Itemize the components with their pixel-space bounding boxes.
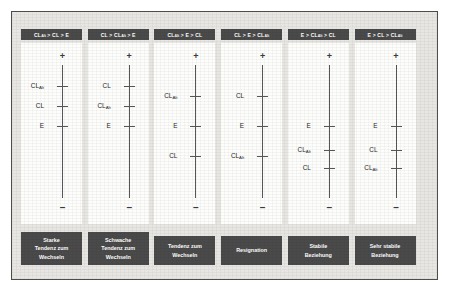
- caption-line: Beziehung: [305, 251, 332, 259]
- panel-caption-2: SchwacheTendenz zumWechseln: [88, 232, 149, 265]
- scale-axis-line: [262, 65, 263, 198]
- axis-negative-marker: –: [321, 203, 338, 213]
- tick-label: CL: [36, 103, 44, 109]
- axis-positive-marker: +: [254, 52, 271, 61]
- panel-plot-1: +–CLAltCLE: [21, 43, 82, 224]
- panel-caption-1: StarkeTendenz zumWechseln: [21, 232, 82, 265]
- tick-mark: [124, 86, 135, 87]
- tick-label: CLAlt: [298, 147, 311, 153]
- panel-plot-5: +–ECLAltCL: [288, 43, 349, 224]
- tick-mark: [257, 96, 268, 97]
- caption-line: Starke: [43, 236, 59, 244]
- tick-label: CLAlt: [31, 83, 44, 89]
- caption-line: Tendenz zum: [101, 244, 135, 252]
- panel-caption-3: Tendenz zumWechseln: [154, 236, 215, 265]
- tick-mark: [257, 126, 268, 127]
- scale-axis-line: [129, 65, 130, 198]
- tick-mark: [57, 106, 68, 107]
- panel-5: E > CLAlt > CL+–ECLAltCLStabileBeziehung: [288, 20, 349, 273]
- tick-label: CL: [103, 83, 111, 89]
- tick-label: CL: [169, 153, 177, 159]
- axis-negative-marker: –: [388, 203, 405, 213]
- panel-plot-4: +–CLECLAlt: [221, 43, 282, 224]
- tick-label: CL: [236, 93, 244, 99]
- axis-positive-marker: +: [121, 52, 138, 61]
- caption-line: Schwache: [105, 236, 131, 244]
- caption-line: Resignation: [236, 246, 267, 254]
- tick-mark: [391, 150, 402, 151]
- panel-plot-2: +–CLCLAltE: [88, 43, 149, 224]
- caption-line: Stabile: [309, 242, 327, 250]
- axis-positive-marker: +: [388, 52, 405, 61]
- caption-line: Beziehung: [371, 251, 398, 259]
- panel-caption-5: StabileBeziehung: [288, 236, 349, 265]
- tick-label: CLAlt: [364, 165, 377, 171]
- panel-header-4: CL > E > CLAlt: [221, 29, 282, 40]
- tick-label: CLAlt: [164, 93, 177, 99]
- tick-label: CL: [369, 147, 377, 153]
- panel-header-2: CL > CLAlt > E: [88, 29, 149, 40]
- caption-line: Tendenz zum: [35, 244, 69, 252]
- tick-mark: [124, 106, 135, 107]
- tick-mark: [324, 168, 335, 169]
- panel-plot-6: +–ECLCLAlt: [355, 43, 416, 224]
- tick-label: E: [307, 123, 311, 129]
- panel-6: E > CL > CLAlt+–ECLCLAltSehr stabileBezi…: [355, 20, 416, 273]
- tick-mark: [124, 126, 135, 127]
- panel-grid: CLAlt > CL > E+–CLAltCLEStarkeTendenz zu…: [12, 12, 439, 281]
- tick-mark: [324, 150, 335, 151]
- caption-line: Wechseln: [106, 253, 131, 261]
- tick-label: E: [373, 123, 377, 129]
- panel-caption-4: Resignation: [221, 236, 282, 265]
- tick-label: E: [173, 123, 177, 129]
- tick-mark: [190, 126, 201, 127]
- caption-line: Wechseln: [172, 251, 197, 259]
- tick-label: CLAlt: [98, 103, 111, 109]
- figure-frame: CLAlt > CL > E+–CLAltCLEStarkeTendenz zu…: [11, 11, 438, 280]
- axis-negative-marker: –: [54, 203, 71, 213]
- caption-line: Tendenz zum: [168, 242, 202, 250]
- scale-axis-line: [62, 65, 63, 198]
- tick-label: E: [40, 123, 44, 129]
- panel-header-1: CLAlt > CL > E: [21, 29, 82, 40]
- axis-positive-marker: +: [187, 52, 204, 61]
- panel-header-3: CLAlt > E > CL: [154, 29, 215, 40]
- scale-axis-line: [329, 65, 330, 198]
- tick-mark: [391, 168, 402, 169]
- panel-header-5: E > CLAlt > CL: [288, 29, 349, 40]
- panel-plot-3: +–CLAltECL: [154, 43, 215, 224]
- tick-label: E: [240, 123, 244, 129]
- tick-label: E: [106, 123, 110, 129]
- panel-4: CL > E > CLAlt+–CLECLAltResignation: [221, 20, 282, 273]
- tick-mark: [190, 156, 201, 157]
- tick-mark: [257, 156, 268, 157]
- axis-positive-marker: +: [321, 52, 338, 61]
- tick-label: CL: [303, 165, 311, 171]
- panel-header-6: E > CL > CLAlt: [355, 29, 416, 40]
- panel-1: CLAlt > CL > E+–CLAltCLEStarkeTendenz zu…: [21, 20, 82, 273]
- caption-line: Sehr stabile: [370, 242, 401, 250]
- tick-mark: [391, 126, 402, 127]
- figure-root: CLAlt > CL > E+–CLAltCLEStarkeTendenz zu…: [0, 0, 449, 291]
- caption-line: Wechseln: [39, 253, 64, 261]
- axis-positive-marker: +: [54, 52, 71, 61]
- panel-2: CL > CLAlt > E+–CLCLAltESchwacheTendenz …: [88, 20, 149, 273]
- panel-caption-6: Sehr stabileBeziehung: [355, 236, 416, 265]
- tick-mark: [190, 96, 201, 97]
- panel-3: CLAlt > E > CL+–CLAltECLTendenz zumWechs…: [154, 20, 215, 273]
- tick-mark: [57, 126, 68, 127]
- axis-negative-marker: –: [254, 203, 271, 213]
- axis-negative-marker: –: [121, 203, 138, 213]
- tick-label: CLAlt: [231, 153, 244, 159]
- tick-mark: [324, 126, 335, 127]
- scale-axis-line: [396, 65, 397, 198]
- tick-mark: [57, 86, 68, 87]
- axis-negative-marker: –: [187, 203, 204, 213]
- scale-axis-line: [195, 65, 196, 198]
